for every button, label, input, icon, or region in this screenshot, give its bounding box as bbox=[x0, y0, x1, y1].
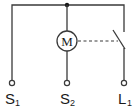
switch-symbol bbox=[113, 30, 125, 80]
label-s1-letter: S bbox=[5, 90, 15, 107]
label-l1: L 1 bbox=[118, 90, 132, 108]
terminal-s1 bbox=[9, 80, 14, 85]
motor-symbol: M bbox=[57, 31, 77, 51]
terminal-l1 bbox=[121, 80, 126, 85]
label-s2: S 2 bbox=[60, 90, 75, 108]
schematic-diagram: M S 1 S 2 L 1 bbox=[0, 0, 136, 112]
terminal-s2 bbox=[64, 80, 69, 85]
label-l1-letter: L bbox=[118, 90, 126, 107]
label-s2-subscript: 2 bbox=[70, 98, 75, 108]
motor-label: M bbox=[61, 34, 73, 49]
label-l1-subscript: 1 bbox=[127, 98, 132, 108]
label-s2-letter: S bbox=[60, 90, 70, 107]
switch-blade bbox=[113, 30, 125, 49]
label-s1: S 1 bbox=[5, 90, 20, 108]
label-s1-subscript: 1 bbox=[15, 98, 20, 108]
